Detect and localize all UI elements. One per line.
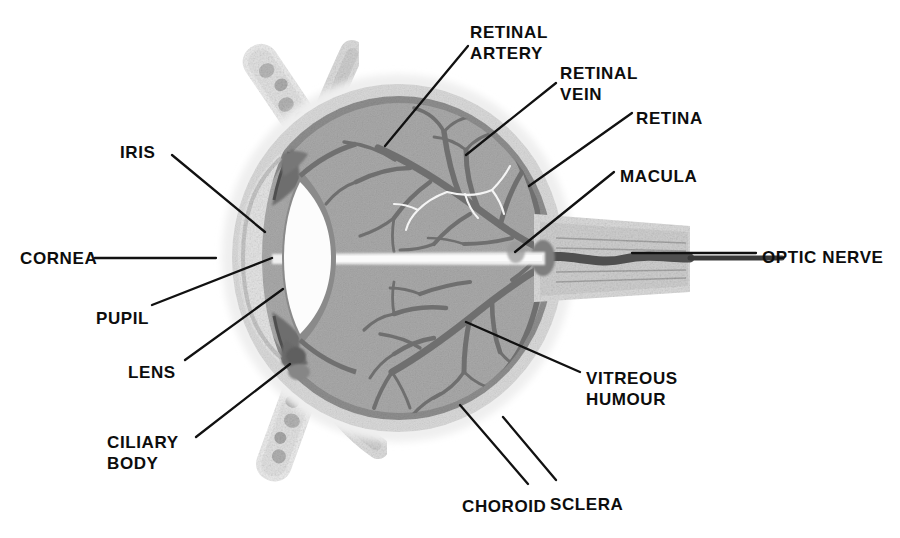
label-pupil-line-1: PUPIL bbox=[96, 308, 149, 329]
label-choroid-line-1: CHOROID bbox=[462, 496, 546, 517]
label-retinal-artery: RETINALARTERY bbox=[470, 22, 548, 64]
label-optic-nerve: OPTIC NERVE bbox=[762, 247, 884, 268]
label-ciliary-body-line-2: BODY bbox=[107, 453, 179, 474]
label-cornea: CORNEA bbox=[20, 248, 97, 269]
label-vitreous-humour-line-1: VITREOUS bbox=[586, 368, 678, 389]
label-iris: IRIS bbox=[120, 142, 155, 163]
label-choroid: CHOROID bbox=[462, 496, 546, 517]
label-pupil: PUPIL bbox=[96, 308, 149, 329]
eye-anatomy-diagram: RETINALARTERYRETINALVEINRETINAMACULAOPTI… bbox=[0, 0, 900, 538]
label-ciliary-body-line-1: CILIARY bbox=[107, 432, 179, 453]
label-sclera-line-1: SCLERA bbox=[550, 494, 624, 515]
central-retinal-vessel bbox=[540, 256, 782, 261]
leader-choroid bbox=[460, 405, 528, 484]
label-iris-line-1: IRIS bbox=[120, 142, 155, 163]
label-macula-line-1: MACULA bbox=[620, 166, 697, 187]
label-retinal-vein-line-1: RETINAL bbox=[560, 63, 638, 84]
label-retinal-vein-line-2: VEIN bbox=[560, 84, 638, 105]
label-lens: LENS bbox=[128, 362, 176, 383]
label-vitreous-humour: VITREOUSHUMOUR bbox=[586, 368, 678, 410]
label-ciliary-body: CILIARYBODY bbox=[107, 432, 179, 474]
label-macula: MACULA bbox=[620, 166, 697, 187]
label-optic-nerve-line-1: OPTIC NERVE bbox=[762, 247, 884, 268]
label-retina: RETINA bbox=[636, 108, 703, 129]
label-lens-line-1: LENS bbox=[128, 362, 176, 383]
label-sclera: SCLERA bbox=[550, 494, 624, 515]
leader-retina bbox=[529, 113, 632, 186]
label-cornea-line-1: CORNEA bbox=[20, 248, 97, 269]
label-retinal-vein: RETINALVEIN bbox=[560, 63, 638, 105]
label-retinal-artery-line-2: ARTERY bbox=[470, 43, 548, 64]
label-vitreous-humour-line-2: HUMOUR bbox=[586, 389, 678, 410]
leader-sclera bbox=[503, 417, 556, 480]
label-retinal-artery-line-1: RETINAL bbox=[470, 22, 548, 43]
label-retina-line-1: RETINA bbox=[636, 108, 703, 129]
